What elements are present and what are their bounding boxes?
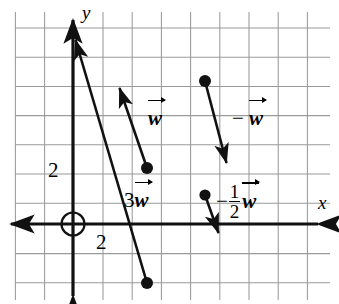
y-tick-label-2: 2 <box>48 160 59 181</box>
minus-sign: − <box>216 189 228 213</box>
vector-coefficient-3: 3 <box>124 188 135 212</box>
vector-symbol-w: w <box>249 106 264 130</box>
vector-label-neg-w: − w <box>232 108 264 129</box>
grid-lines <box>15 12 330 300</box>
vector-label-w: w <box>148 108 163 129</box>
vector-symbol-w: w <box>242 189 257 213</box>
diagram-canvas <box>0 0 339 304</box>
vector-diagram: y x 2 2 w 3w − w −12w <box>0 0 339 304</box>
fraction-numerator: 1 <box>229 182 241 201</box>
fraction-one-half: 12 <box>229 182 241 222</box>
fraction-denominator: 2 <box>229 201 241 221</box>
vector-symbol-w: w <box>148 106 163 130</box>
minus-sign: − <box>232 106 244 130</box>
vector-3w <box>76 40 154 289</box>
x-tick-label-2: 2 <box>96 232 107 253</box>
x-axis-label: x <box>318 193 326 212</box>
y-axis-label: y <box>82 3 90 22</box>
vector-symbol-w: w <box>135 188 150 212</box>
vector-neg-w <box>199 75 227 163</box>
vector-label-neg-half-w: −12w <box>216 183 257 223</box>
vector-label-3w: 3w <box>124 190 150 211</box>
